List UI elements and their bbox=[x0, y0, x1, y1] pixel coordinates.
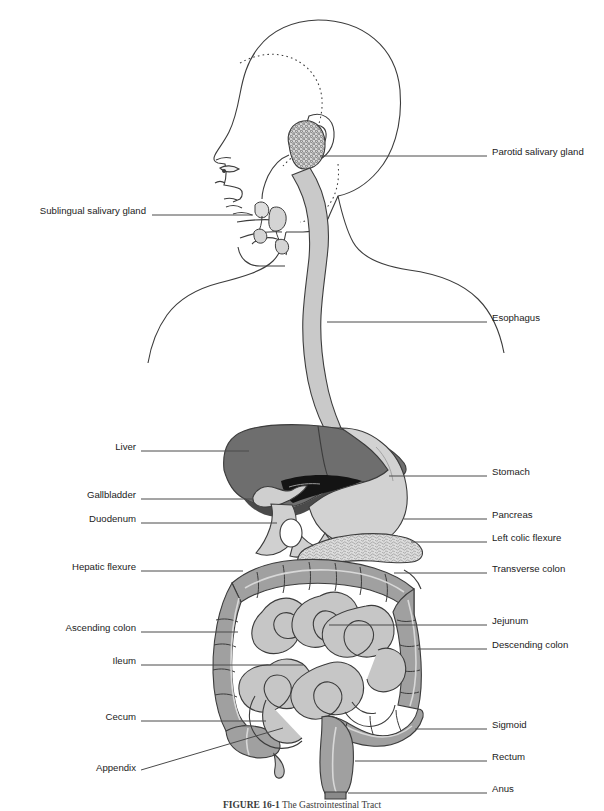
gastrointestinal-tract-illustration bbox=[0, 0, 604, 811]
label-liver: Liver bbox=[0, 442, 136, 452]
label-anus: Anus bbox=[492, 784, 514, 794]
label-descending-colon: Descending colon bbox=[492, 640, 568, 650]
label-parotid-salivary-gland: Parotid salivary gland bbox=[492, 147, 584, 157]
label-esophagus: Esophagus bbox=[492, 313, 540, 323]
label-ascending-colon: Ascending colon bbox=[0, 623, 136, 633]
label-jejunum: Jejunum bbox=[492, 616, 528, 626]
label-sublingual-salivary-gland: Sublingual salivary gland bbox=[0, 206, 146, 216]
figure-caption-number: FIGURE 16-1 bbox=[223, 800, 280, 810]
head-and-torso-outline bbox=[148, 20, 504, 363]
label-hepatic-flexure: Hepatic flexure bbox=[0, 562, 136, 572]
anus-shape bbox=[325, 792, 346, 799]
figure-container: Sublingual salivary glandLiverGallbladde… bbox=[0, 0, 604, 811]
label-pancreas: Pancreas bbox=[492, 510, 533, 520]
figure-caption: FIGURE 16-1 The Gastrointestinal Tract bbox=[0, 800, 604, 810]
label-cecum: Cecum bbox=[0, 712, 136, 722]
label-rectum: Rectum bbox=[492, 752, 525, 762]
label-transverse-colon: Transverse colon bbox=[492, 564, 565, 574]
appendix-shape bbox=[274, 754, 284, 778]
label-appendix: Appendix bbox=[0, 763, 136, 773]
label-gallbladder: Gallbladder bbox=[0, 490, 136, 500]
label-duodenum: Duodenum bbox=[0, 514, 136, 524]
label-ileum: Ileum bbox=[0, 656, 136, 666]
label-sigmoid: Sigmoid bbox=[492, 720, 527, 730]
sublingual-salivary-gland-shape bbox=[254, 202, 289, 254]
label-left-colic-flexure: Left colic flexure bbox=[492, 533, 561, 543]
figure-caption-title: The Gastrointestinal Tract bbox=[282, 800, 381, 810]
label-stomach: Stomach bbox=[492, 467, 530, 477]
